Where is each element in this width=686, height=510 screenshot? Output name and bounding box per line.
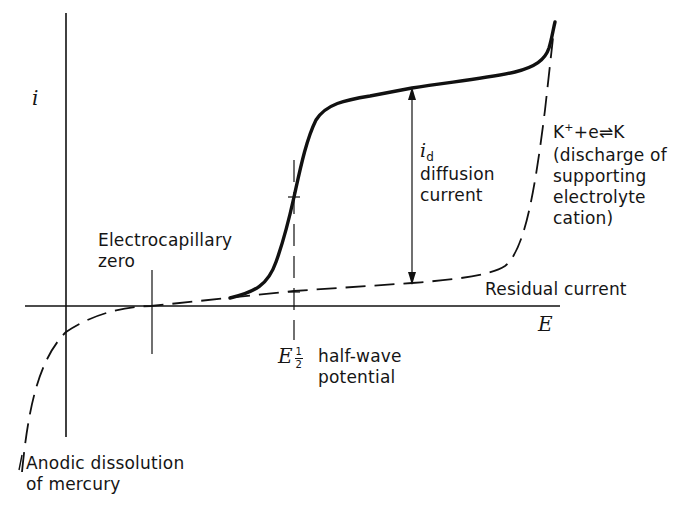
y-axis-label: i <box>32 88 39 109</box>
diffusion-line1: diffusion <box>420 164 495 185</box>
discharge-line2: supporting <box>553 166 667 187</box>
anodic-line2: of mercury <box>26 474 184 495</box>
x-axis-label: E <box>538 314 553 335</box>
electrocapillary-line1: Electrocapillary <box>98 230 232 251</box>
half-wave-line1: half-wave <box>318 346 402 367</box>
half-wave-line2: potential <box>318 367 402 388</box>
electrocapillary-line2: zero <box>98 251 232 272</box>
reaction-equation: K++e⇌K <box>553 122 667 145</box>
anodic-dissolution-label: Anodic dissolution of mercury <box>26 453 184 495</box>
potassium-discharge-label: K++e⇌K (discharge of supporting electrol… <box>553 122 667 229</box>
discharge-line3: electrolyte <box>553 187 667 208</box>
half-wave-symbol: E <box>278 344 293 368</box>
id-subscript: d <box>426 150 434 164</box>
half-wave-fraction: 12 <box>295 347 303 370</box>
discharge-line1: (discharge of <box>553 145 667 166</box>
diffusion-line2: current <box>420 185 495 206</box>
half-wave-label: E12 <box>278 346 303 370</box>
residual-current-label: Residual current <box>485 279 627 300</box>
half-wave-text: half-wave potential <box>318 346 402 388</box>
electrocapillary-label: Electrocapillary zero <box>98 230 232 272</box>
anodic-line1: Anodic dissolution <box>26 453 184 474</box>
frac-num: 1 <box>295 347 303 357</box>
discharge-line4: cation) <box>553 208 667 229</box>
diffusion-current-label: id diffusion current <box>420 140 495 206</box>
frac-den: 2 <box>295 360 303 370</box>
polarographic-wave-curve <box>230 22 555 298</box>
